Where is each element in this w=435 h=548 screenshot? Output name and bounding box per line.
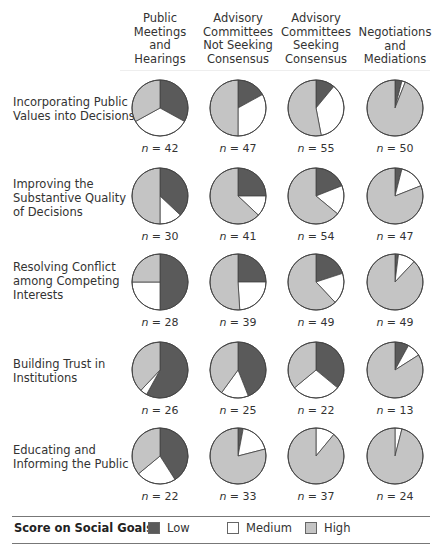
legend-swatch-medium xyxy=(227,522,239,534)
legend-item-medium: Medium xyxy=(227,521,292,535)
row-label-line: of Decisions xyxy=(13,205,143,219)
column-header-advisory-not-seeking: Advisory Committees Not Seeking Consensu… xyxy=(198,12,278,66)
row-label-incorporating: Incorporating Public Values into Decisio… xyxy=(13,95,143,123)
row-label-line: Values into Decisions xyxy=(13,109,143,123)
header-line: Meetings xyxy=(120,26,200,40)
row-label-line: Institutions xyxy=(13,371,143,385)
header-line: Not Seeking xyxy=(198,39,278,53)
row-label-line: among Competing xyxy=(13,274,143,288)
pie-chart xyxy=(130,426,190,486)
legend-top-rule xyxy=(12,516,430,517)
header-line: and xyxy=(120,39,200,53)
pie-chart xyxy=(286,78,346,138)
sample-size-label: n = 50 xyxy=(360,142,430,155)
sample-size-label: n = 49 xyxy=(360,316,430,329)
sample-size-label: n = 13 xyxy=(360,404,430,417)
legend-label-low: Low xyxy=(167,521,190,535)
legend-label-medium: Medium xyxy=(246,521,292,535)
sample-size-label: n = 25 xyxy=(203,404,273,417)
pie-chart xyxy=(208,426,268,486)
pie-slice-high xyxy=(210,80,238,136)
header-line: Seeking xyxy=(276,39,356,53)
pie-slice-low xyxy=(160,254,188,310)
row-label-line: Interests xyxy=(13,288,143,302)
pie-chart xyxy=(286,252,346,312)
sample-size-label: n = 24 xyxy=(360,490,430,503)
header-line: Mediations xyxy=(355,53,435,67)
sample-size-label: n = 47 xyxy=(360,230,430,243)
pie-chart xyxy=(208,78,268,138)
column-header-negotiations: Negotiations and Mediations xyxy=(355,26,435,67)
pie-slice-high xyxy=(210,254,240,310)
pie-chart xyxy=(208,166,268,226)
pie-chart xyxy=(365,340,425,400)
legend-swatch-high xyxy=(305,522,317,534)
pie-chart xyxy=(130,252,190,312)
row-label-line: Substantive Quality xyxy=(13,191,143,205)
header-line: Hearings xyxy=(120,53,200,67)
sample-size-label: n = 26 xyxy=(125,404,195,417)
row-label-line: Resolving Conflict xyxy=(13,260,143,274)
pie-chart xyxy=(286,426,346,486)
header-line: and xyxy=(355,40,435,54)
sample-size-label: n = 42 xyxy=(125,142,195,155)
header-line: Committees xyxy=(276,26,356,40)
legend-label-high: High xyxy=(324,521,350,535)
sample-size-label: n = 22 xyxy=(281,404,351,417)
pie-chart xyxy=(365,166,425,226)
row-label-improving: Improving the Substantive Quality of Dec… xyxy=(13,177,143,219)
sample-size-label: n = 41 xyxy=(203,230,273,243)
pie-slice-high xyxy=(288,80,321,136)
column-header-public-meetings: Public Meetings and Hearings xyxy=(120,12,200,66)
legend-bottom-rule xyxy=(12,543,430,544)
pie-chart xyxy=(208,340,268,400)
sample-size-label: n = 49 xyxy=(281,316,351,329)
pie-chart xyxy=(286,340,346,400)
legend-title: Score on Social Goals xyxy=(14,521,153,535)
row-label-line: Incorporating Public xyxy=(13,95,143,109)
header-line: Negotiations xyxy=(355,26,435,40)
sample-size-label: n = 37 xyxy=(281,490,351,503)
pie-slice-high xyxy=(132,168,160,224)
row-label-line: Improving the xyxy=(13,177,143,191)
sample-size-label: n = 33 xyxy=(203,490,273,503)
sample-size-label: n = 28 xyxy=(125,316,195,329)
header-line: Committees xyxy=(198,26,278,40)
sample-size-label: n = 54 xyxy=(281,230,351,243)
sample-size-label: n = 39 xyxy=(203,316,273,329)
column-header-advisory-seeking: Advisory Committees Seeking Consensus xyxy=(276,12,356,66)
row-label-line: Informing the Public xyxy=(13,457,143,471)
legend-swatch-low xyxy=(148,522,160,534)
row-label-line: Educating and xyxy=(13,443,143,457)
legend-item-high: High xyxy=(305,521,350,535)
pie-chart xyxy=(130,166,190,226)
sample-size-label: n = 47 xyxy=(203,142,273,155)
pie-chart xyxy=(286,166,346,226)
pie-chart xyxy=(130,340,190,400)
header-line: Public xyxy=(120,12,200,26)
row-label-trust: Building Trust in Institutions xyxy=(13,357,143,385)
sample-size-label: n = 55 xyxy=(281,142,351,155)
header-line: Consensus xyxy=(276,53,356,67)
legend-item-low: Low xyxy=(148,521,190,535)
row-label-educating: Educating and Informing the Public xyxy=(13,443,143,471)
sample-size-label: n = 30 xyxy=(125,230,195,243)
pie-chart xyxy=(365,78,425,138)
header-line: Advisory xyxy=(276,12,356,26)
header-divider xyxy=(120,70,430,71)
pie-chart xyxy=(208,252,268,312)
row-label-line: Building Trust in xyxy=(13,357,143,371)
header-line: Consensus xyxy=(198,53,278,67)
pie-chart xyxy=(365,252,425,312)
sample-size-label: n = 22 xyxy=(125,490,195,503)
row-label-resolving: Resolving Conflict among Competing Inter… xyxy=(13,260,143,302)
pie-chart xyxy=(130,78,190,138)
header-line: Advisory xyxy=(198,12,278,26)
pie-chart xyxy=(365,426,425,486)
